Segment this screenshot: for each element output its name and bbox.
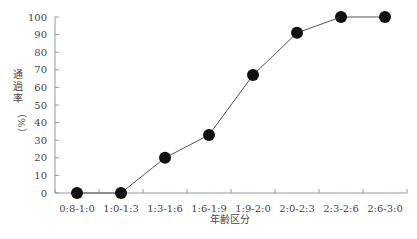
x-tick-label: 0:8-1:0: [59, 203, 95, 214]
x-tick-label: 1:6-1:9: [191, 203, 227, 214]
y-tick-label: 10: [34, 170, 47, 181]
y-axis: 0102030405060708090100: [28, 12, 59, 199]
y-tick-label: 70: [34, 64, 47, 75]
y-tick-label: 20: [34, 152, 47, 163]
y-tick-label: 0: [41, 188, 47, 199]
data-point-marker: [379, 11, 391, 23]
y-tick-label: 100: [28, 12, 47, 23]
data-series: [71, 11, 391, 199]
data-point-marker: [335, 11, 347, 23]
y-axis-title-main: 通過率: [13, 69, 23, 104]
y-axis-title-unit: （%）: [16, 108, 27, 138]
x-tick-label: 2:0-2:3: [279, 203, 315, 214]
data-point-marker: [71, 187, 83, 199]
x-axis-title: 年齢区分: [210, 213, 250, 225]
y-tick-label: 80: [34, 47, 47, 58]
y-tick-label: 30: [34, 135, 47, 146]
data-point-marker: [291, 27, 303, 39]
x-tick-label: 1:9-2:0: [235, 203, 271, 214]
y-tick-label: 90: [34, 29, 47, 40]
y-tick-label: 60: [34, 82, 47, 93]
y-tick-label: 50: [34, 100, 47, 111]
y-axis-title: 通過率 （%）: [13, 69, 27, 138]
series-line: [77, 17, 385, 193]
y-tick-label: 40: [34, 117, 47, 128]
data-point-marker: [115, 187, 127, 199]
x-tick-label: 2:3-2:6: [323, 203, 359, 214]
x-tick-label: 1:0-1:3: [103, 203, 139, 214]
data-point-marker: [159, 152, 171, 164]
data-point-marker: [203, 129, 215, 141]
data-point-marker: [247, 69, 259, 81]
x-tick-label: 1:3-1:6: [147, 203, 183, 214]
x-tick-label: 2:6-3:0: [367, 203, 403, 214]
line-chart: 0102030405060708090100 0:8-1:01:0-1:31:3…: [0, 0, 417, 239]
